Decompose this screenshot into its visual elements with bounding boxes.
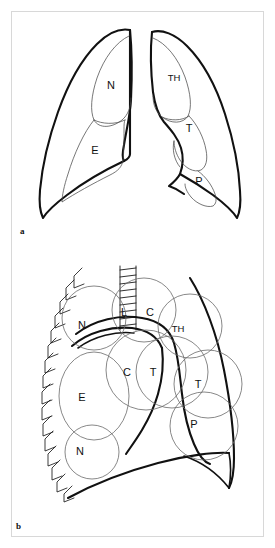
- zone-label-b-p: P: [190, 418, 197, 430]
- zone-circle-n-lower: [65, 425, 119, 479]
- zone-label-th-right: TH: [168, 72, 181, 83]
- zone-label-b-n-lower: N: [76, 445, 84, 457]
- panel-caption-a: a: [20, 227, 25, 236]
- zone-label-b-t-lat: T: [195, 378, 202, 390]
- trachea: [120, 266, 136, 330]
- left-lung-outline: [40, 30, 132, 218]
- figure-root: N E TH T P a: [0, 0, 275, 548]
- zone-circle-t-central: [136, 336, 208, 408]
- zone-label-b-e: E: [78, 391, 85, 403]
- zone-label-t-right: T: [186, 122, 193, 134]
- zone-circle-p: [170, 392, 238, 460]
- rib-markings: [42, 268, 84, 502]
- panel-caption-b: b: [16, 522, 21, 531]
- zone-label-b-t-mid: T: [150, 366, 157, 378]
- zone-label-b-c-mid: C: [123, 366, 131, 378]
- zone-label-b-c-upper: C: [146, 306, 154, 318]
- panel-a-diagram: N E TH T P: [12, 8, 264, 228]
- zone-label-b-n-upper: N: [78, 319, 86, 331]
- zone-label-b-l: L: [121, 306, 127, 318]
- zone-circle-t-lateral: [174, 350, 242, 418]
- panel-b-diagram: N L C TH C T T E P N: [12, 248, 264, 518]
- zone-circle-e: [59, 352, 129, 440]
- left-lung-zones: [62, 36, 131, 202]
- zone-label-p-right: P: [195, 175, 202, 187]
- zone-label-e-left: E: [91, 144, 98, 156]
- zone-label-n-left: N: [107, 79, 115, 91]
- right-lung-zones: [153, 38, 216, 207]
- zone-label-b-th: TH: [172, 323, 185, 334]
